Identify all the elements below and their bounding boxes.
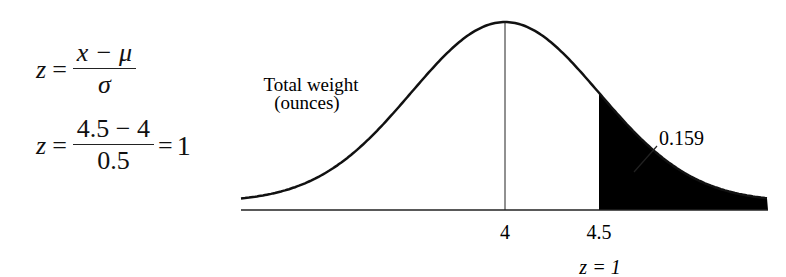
area-label: 0.159 — [659, 127, 704, 149]
diagram-title-line2: (ounces) — [274, 92, 339, 114]
normal-curve-diagram: Total weight (ounces) 4 4.5 z = 1 0.159 — [0, 0, 786, 277]
tick-label-mean: 4 — [500, 221, 510, 243]
z-label: z = 1 — [578, 256, 620, 277]
shaded-tail-area — [599, 93, 768, 210]
tick-label-x: 4.5 — [587, 221, 612, 243]
